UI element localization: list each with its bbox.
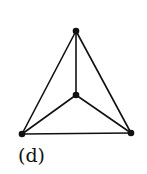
edge-center-bottom-left [22,95,76,134]
vertex-center [73,92,80,99]
vertex-bottom-left [19,131,26,138]
figure-caption: (d) [18,146,45,165]
vertex-bottom-right [128,130,135,137]
vertex-top [73,28,80,35]
edge-bottom-left-bottom-right [22,133,131,134]
edge-top-bottom-left [22,31,76,134]
edge-top-bottom-right [76,31,131,133]
edge-center-bottom-right [76,95,131,133]
graph-edges [22,31,131,134]
